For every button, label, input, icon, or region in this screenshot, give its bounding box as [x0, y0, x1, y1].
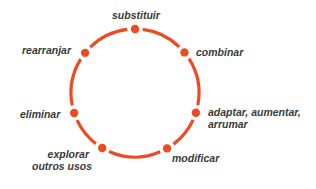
label-adaptar-line2: arrumar	[208, 118, 301, 130]
ring-arc-segment	[173, 120, 193, 144]
node-dot-rearranjar	[81, 49, 89, 57]
label-adaptar-line1: adaptar, aumentar,	[208, 106, 301, 118]
ring-arc-segment	[143, 29, 180, 46]
ring-arc-segment	[109, 151, 160, 157]
node-dot-adaptar	[192, 108, 200, 116]
label-eliminar: eliminar	[20, 108, 60, 120]
label-combinar: combinar	[196, 46, 243, 58]
ring-arc-segment	[189, 59, 199, 106]
ring-arc-segment	[71, 59, 81, 105]
ring-arc-segment	[77, 120, 96, 144]
label-modificar: modificar	[172, 152, 219, 164]
label-substituir: substituir	[112, 9, 160, 21]
node-dot-explorar	[98, 144, 106, 152]
label-explorar: explorar outros usos	[32, 148, 89, 172]
label-explorar-line1: explorar	[32, 148, 89, 160]
label-explorar-line2: outros usos	[32, 160, 89, 172]
node-dot-combinar	[180, 48, 188, 56]
node-dot-modificar	[163, 144, 171, 152]
label-adaptar: adaptar, aumentar, arrumar	[208, 106, 301, 130]
node-dot-eliminar	[70, 109, 78, 117]
ring-arc-segment	[90, 29, 127, 47]
node-dot-substituir	[131, 25, 139, 33]
scamper-cycle-diagram: substituir combinar adaptar, aumentar, a…	[0, 0, 316, 189]
label-rearranjar: rearranjar	[22, 44, 71, 56]
